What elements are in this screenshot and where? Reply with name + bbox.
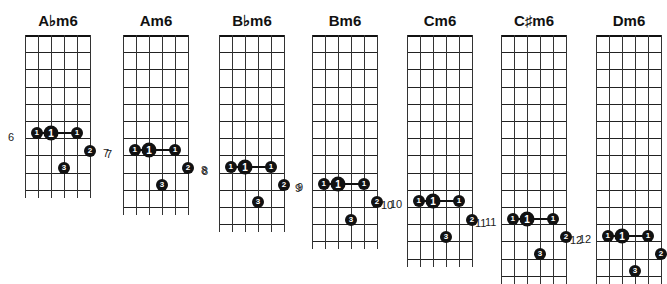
finger-dot: 1 bbox=[71, 127, 83, 139]
finger-dot: 1 bbox=[225, 161, 237, 173]
string-line bbox=[90, 35, 91, 198]
fret-line bbox=[123, 87, 189, 88]
nut-line bbox=[312, 35, 378, 37]
string-line bbox=[51, 35, 52, 198]
string-line bbox=[407, 35, 408, 267]
nut-line bbox=[219, 35, 285, 37]
string-line bbox=[149, 35, 150, 215]
string-line bbox=[648, 35, 649, 284]
fret-number-left: 12 bbox=[570, 234, 582, 246]
fret-line bbox=[501, 173, 567, 174]
string-line bbox=[501, 35, 502, 284]
fret-line bbox=[501, 190, 567, 191]
string-line bbox=[77, 35, 78, 198]
string-line bbox=[25, 35, 26, 198]
fret-line bbox=[123, 121, 189, 122]
fret-line bbox=[596, 276, 662, 277]
fret-line bbox=[501, 121, 567, 122]
fret-line bbox=[123, 207, 189, 208]
fret-line bbox=[501, 104, 567, 105]
string-line bbox=[175, 35, 176, 215]
fret-line bbox=[219, 121, 285, 122]
fret-line bbox=[123, 190, 189, 191]
fret-line bbox=[596, 155, 662, 156]
fret-line bbox=[219, 87, 285, 88]
fret-line bbox=[312, 155, 378, 156]
fret-line bbox=[407, 155, 473, 156]
fret-number-left: 6 bbox=[8, 131, 14, 143]
fret-line bbox=[123, 104, 189, 105]
finger-dot: 1 bbox=[169, 144, 181, 156]
fret-number-left: 11 bbox=[475, 217, 486, 229]
fret-line bbox=[123, 138, 189, 139]
fret-line bbox=[596, 104, 662, 105]
nut-line bbox=[123, 35, 189, 37]
fret-line bbox=[407, 138, 473, 139]
fret-line bbox=[219, 155, 285, 156]
finger-dot: 1 bbox=[44, 125, 59, 140]
finger-dot: 3 bbox=[252, 196, 264, 208]
fret-line bbox=[123, 52, 189, 53]
fret-number-left: 8 bbox=[202, 165, 208, 177]
fret-line bbox=[501, 276, 567, 277]
fret-line bbox=[25, 190, 91, 191]
fret-line bbox=[501, 241, 567, 242]
fret-line bbox=[25, 104, 91, 105]
fret-line bbox=[219, 224, 285, 225]
finger-dot: 1 bbox=[602, 230, 614, 242]
string-line bbox=[338, 35, 339, 249]
string-line bbox=[566, 35, 567, 284]
chord-title: Cm6 bbox=[407, 12, 473, 29]
fret-line bbox=[25, 87, 91, 88]
finger-dot: 3 bbox=[58, 162, 70, 174]
fret-line bbox=[312, 207, 378, 208]
fret-line bbox=[501, 207, 567, 208]
string-line bbox=[540, 35, 541, 284]
fret-line bbox=[501, 69, 567, 70]
finger-dot: 3 bbox=[440, 231, 452, 243]
string-line bbox=[609, 35, 610, 284]
finger-dot: 1 bbox=[507, 213, 519, 225]
finger-dot: 2 bbox=[182, 162, 194, 174]
fret-line bbox=[312, 52, 378, 53]
fret-line bbox=[501, 138, 567, 139]
finger-dot: 2 bbox=[278, 179, 290, 191]
finger-dot: 3 bbox=[629, 265, 641, 277]
fret-line bbox=[312, 224, 378, 225]
fret-line bbox=[312, 121, 378, 122]
chord-title: B♭m6 bbox=[219, 12, 285, 30]
fret-line bbox=[219, 69, 285, 70]
fret-line bbox=[312, 87, 378, 88]
fret-line bbox=[407, 69, 473, 70]
fret-line bbox=[123, 69, 189, 70]
fret-line bbox=[596, 121, 662, 122]
fret-line bbox=[407, 190, 473, 191]
finger-dot: 1 bbox=[453, 195, 465, 207]
fret-line bbox=[407, 241, 473, 242]
finger-dot: 1 bbox=[426, 194, 441, 209]
fret-line bbox=[596, 52, 662, 53]
fret-line bbox=[501, 87, 567, 88]
fret-line bbox=[25, 173, 91, 174]
string-line bbox=[312, 35, 313, 249]
finger-dot: 1 bbox=[642, 230, 654, 242]
string-line bbox=[188, 35, 189, 215]
finger-dot: 1 bbox=[358, 178, 370, 190]
nut-line bbox=[407, 35, 473, 37]
string-line bbox=[325, 35, 326, 249]
string-line bbox=[271, 35, 272, 232]
string-line bbox=[527, 35, 528, 284]
fret-line bbox=[407, 104, 473, 105]
fret-line bbox=[312, 69, 378, 70]
finger-dot: 1 bbox=[318, 178, 330, 190]
string-line bbox=[364, 35, 365, 249]
fret-line bbox=[312, 173, 378, 174]
string-line bbox=[661, 35, 662, 284]
string-line bbox=[123, 35, 124, 215]
chord-title: Dm6 bbox=[596, 12, 662, 29]
finger-dot: 1 bbox=[413, 195, 425, 207]
fret-line bbox=[312, 138, 378, 139]
fret-line bbox=[219, 207, 285, 208]
finger-dot: 1 bbox=[238, 160, 253, 175]
fret-line bbox=[219, 104, 285, 105]
